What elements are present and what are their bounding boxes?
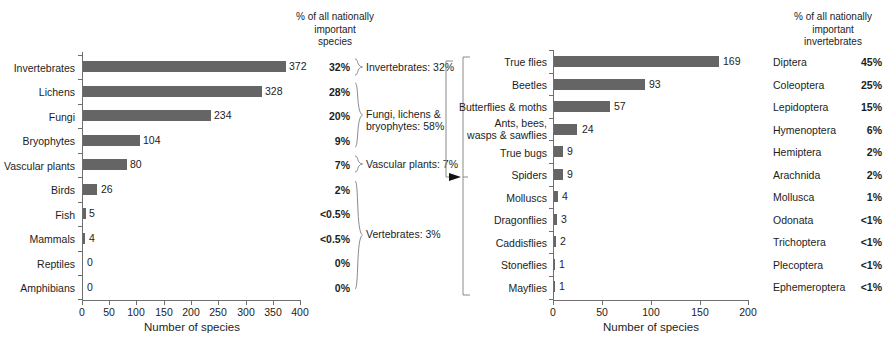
right-percent-value: 2%	[840, 169, 882, 181]
group-label-fungi-line1: Fungi, lichens &	[366, 108, 441, 121]
right-x-tick	[748, 301, 749, 305]
right-percent-value: <1%	[840, 259, 882, 271]
right-order-name: Hemiptera	[773, 146, 821, 158]
left-x-tick-label: 50	[99, 306, 119, 318]
right-order-name: Mollusca	[773, 191, 814, 203]
right-percent-value: 15%	[840, 101, 882, 113]
left-y-tick	[78, 153, 82, 154]
right-category-label: Mayflies	[455, 282, 547, 294]
right-percent-header-line3: invertebrates	[775, 36, 891, 49]
right-y-tick	[549, 231, 553, 232]
right-x-tick	[700, 301, 701, 305]
right-order-name: Ephemeroptera	[773, 281, 845, 293]
right-category-label: Butterflies & moths	[455, 101, 547, 113]
right-y-tick	[549, 140, 553, 141]
right-category-label: True flies	[455, 56, 547, 68]
left-y-tick	[78, 251, 82, 252]
left-x-tick	[136, 301, 137, 305]
right-order-name: Lepidoptera	[773, 101, 828, 113]
right-bar-beetles	[554, 79, 645, 90]
left-bar-mammals	[83, 233, 85, 244]
bracket-vertebrates	[354, 180, 364, 290]
right-x-tick	[651, 301, 652, 305]
right-percent-value: 25%	[840, 79, 882, 91]
left-bar-birds	[83, 184, 97, 195]
right-bar-value: 1	[559, 259, 565, 270]
right-bar-value: 9	[567, 169, 573, 180]
right-category-label: Dragonflies	[455, 214, 547, 226]
right-bar-true-bugs	[554, 146, 563, 157]
right-bar-value: 93	[649, 79, 661, 90]
left-category-label: Bryophytes	[0, 135, 75, 147]
right-y-tick	[549, 253, 553, 254]
right-bar-mayflies	[554, 281, 555, 292]
left-x-tick	[218, 301, 219, 305]
left-x-tick	[246, 301, 247, 305]
left-x-tick	[164, 301, 165, 305]
right-order-name: Odonata	[773, 214, 813, 226]
right-bar-stoneflies	[554, 259, 555, 270]
left-y-tick	[78, 55, 82, 56]
right-percent-header-line1: % of all nationally	[775, 11, 891, 24]
left-x-tick-label: 300	[236, 306, 256, 318]
right-bar-value: 24	[582, 124, 594, 135]
right-order-name: Coleoptera	[773, 79, 824, 91]
right-percent-value: 6%	[840, 124, 882, 136]
right-bar-value: 1	[559, 281, 565, 292]
group-label-fungi-line2: bryophytes: 58%	[366, 120, 444, 133]
right-percent-value: 1%	[840, 191, 882, 203]
left-y-tick	[78, 226, 82, 227]
right-percent-value: <1%	[840, 214, 882, 226]
left-percent-value: 0%	[308, 282, 350, 294]
right-bar-caddisflies	[554, 236, 556, 247]
left-category-label: Fungi	[0, 111, 75, 123]
right-category-label: Molluscs	[455, 192, 547, 204]
left-x-tick-label: 0	[72, 306, 92, 318]
left-x-tick	[82, 301, 83, 305]
left-y-tick	[78, 104, 82, 105]
right-y-tick	[549, 208, 553, 209]
left-bar-value: 0	[87, 257, 93, 268]
right-x-tick-label: 150	[690, 306, 710, 318]
left-category-label: Lichens	[0, 86, 75, 98]
right-bar-value: 57	[614, 101, 626, 112]
left-bar-value: 234	[214, 110, 232, 121]
right-bar-ants-bees-wasps-sawflies	[554, 124, 577, 135]
left-bar-fungi	[83, 110, 211, 121]
left-percent-value: 28%	[308, 86, 350, 98]
left-bar-value: 4	[89, 233, 95, 244]
bracket-invertebrates	[354, 58, 364, 76]
left-percent-value: 9%	[308, 135, 350, 147]
left-x-tick	[273, 301, 274, 305]
right-y-tick	[549, 186, 553, 187]
figure-two-panel-bar-charts: Invertebrates Lichens Fungi Bryophytes V…	[0, 0, 891, 348]
left-y-tick	[78, 202, 82, 203]
right-bar-molluscs	[554, 191, 558, 202]
left-x-tick-label: 200	[181, 306, 201, 318]
right-bar-value: 9	[567, 146, 573, 157]
bracket-fungi-lichens-bryophytes	[354, 82, 364, 148]
left-bar-value: 372	[289, 61, 307, 72]
left-percent-value: 2%	[308, 184, 350, 196]
left-category-label: Amphibians	[0, 282, 75, 294]
right-category-label: Stoneflies	[455, 259, 547, 271]
left-percent-value: 7%	[308, 159, 350, 171]
right-order-name: Plecoptera	[773, 259, 823, 271]
right-order-name: Trichoptera	[773, 236, 826, 248]
left-y-tick	[78, 275, 82, 276]
left-bar-vascular-plants	[83, 159, 127, 170]
left-x-tick-label: 100	[126, 306, 146, 318]
right-y-tick	[549, 73, 553, 74]
right-y-tick	[549, 163, 553, 164]
left-category-label: Birds	[0, 184, 75, 196]
left-y-tick	[78, 177, 82, 178]
left-x-tick	[191, 301, 192, 305]
right-category-label-line1: Ants, bees,	[455, 118, 547, 130]
right-percent-value: <1%	[840, 281, 882, 293]
right-category-label-line2: wasps & sawflies	[455, 130, 547, 142]
left-percent-value: <0.5%	[308, 208, 350, 220]
right-order-name: Diptera	[773, 56, 807, 68]
right-x-tick-label: 50	[592, 306, 612, 318]
left-x-axis-title: Number of species	[107, 321, 277, 333]
right-bar-spiders	[554, 169, 563, 180]
